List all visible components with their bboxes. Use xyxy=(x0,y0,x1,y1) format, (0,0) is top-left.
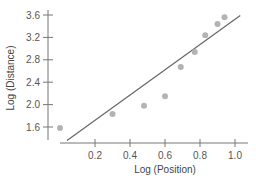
y-tick-label: 2.0 xyxy=(26,99,40,110)
y-axis: 1.62.02.42.83.23.6 xyxy=(26,10,53,141)
x-axis-label: Log (Position) xyxy=(134,164,196,175)
x-tick-label: 1.0 xyxy=(228,150,242,161)
data-point xyxy=(57,125,63,131)
data-point xyxy=(192,49,198,55)
x-tick-label: 0.2 xyxy=(88,150,102,161)
fit-line xyxy=(67,16,240,141)
data-point xyxy=(162,93,168,99)
y-tick-label: 1.6 xyxy=(26,122,40,133)
y-tick-label: 3.6 xyxy=(26,10,40,21)
data-point xyxy=(141,103,147,109)
data-point xyxy=(215,21,221,27)
y-tick-label: 3.2 xyxy=(26,32,40,43)
data-point xyxy=(178,64,184,70)
scatter-plot: 1.62.02.42.83.23.6 0.20.40.60.81.0 Log (… xyxy=(0,0,256,185)
y-axis-label: Log (Distance) xyxy=(5,45,16,110)
data-point xyxy=(110,111,116,117)
x-tick-label: 0.8 xyxy=(193,150,207,161)
data-point xyxy=(202,32,208,38)
x-tick-label: 0.6 xyxy=(158,150,172,161)
y-tick-label: 2.4 xyxy=(26,77,40,88)
data-points xyxy=(57,14,228,131)
regression-line xyxy=(67,16,240,141)
x-axis: 0.20.40.60.81.0 xyxy=(60,139,248,161)
data-point xyxy=(222,14,228,20)
y-tick-label: 2.8 xyxy=(26,54,40,65)
x-tick-label: 0.4 xyxy=(123,150,137,161)
